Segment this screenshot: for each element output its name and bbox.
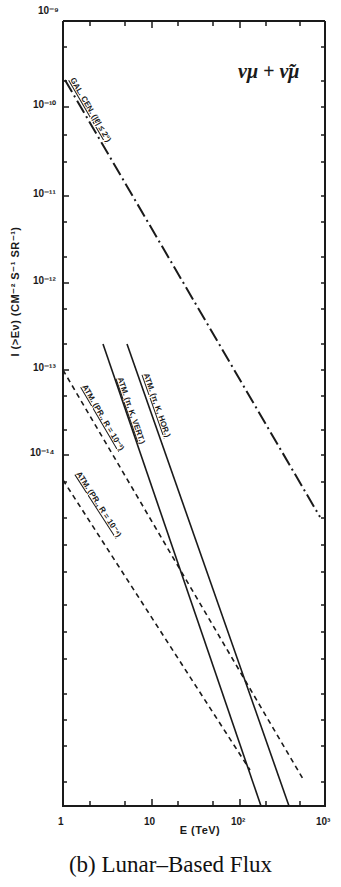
y-tick-label: 10⁻¹¹ (33, 188, 56, 199)
y-tick-label: 10⁻¹² (33, 275, 56, 286)
y-tick-label: 10⁻¹⁰ (33, 99, 56, 110)
legend-title: νμ + ν̃μ (238, 60, 299, 83)
figure-caption: (b) Lunar–Based Flux (0, 852, 341, 878)
x-ticks (90, 21, 300, 806)
y-axis-label: I (>Eν) (CM⁻² S⁻¹ SR⁻¹) (9, 177, 22, 407)
plot-area (0, 0, 341, 887)
series-atm-hor (127, 344, 289, 806)
series-gal-cen (65, 80, 320, 517)
x-axis-label: E (TeV) (150, 824, 250, 836)
y-tick-label: 10⁻⁹ (38, 5, 59, 16)
series-atm-pr3 (63, 370, 303, 779)
y-tick-label: 10⁻¹⁴ (30, 447, 54, 458)
x-tick-label: 1 (58, 816, 64, 827)
x-tick-label: 10³ (316, 816, 330, 827)
y-tick-label: 10⁻¹³ (33, 362, 56, 373)
series-atm-pr4 (63, 480, 250, 770)
